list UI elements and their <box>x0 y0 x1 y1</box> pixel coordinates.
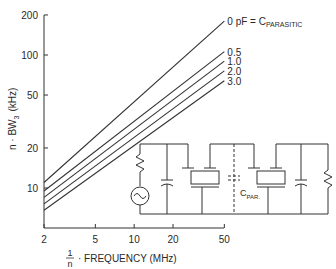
series-line <box>44 61 224 197</box>
x-label-text: · FREQUENCY (MHz) <box>78 253 177 264</box>
y-tick-label: 100 <box>21 50 38 61</box>
circuit-inset: CPAR. <box>131 144 332 214</box>
series-labels: 0 pF = CPARASITIC0.51.02.03.0 <box>227 16 302 87</box>
series-line <box>44 52 224 191</box>
source-resistor-icon <box>136 144 144 186</box>
svg-text:n · BW3(kHz): n · BW3(kHz) <box>7 88 20 150</box>
y-label-unit: (kHz) <box>7 88 18 112</box>
y-label-sub: 3 <box>13 115 20 119</box>
y-tick-label: 200 <box>21 10 38 21</box>
x-tick-label: 10 <box>129 234 141 245</box>
x-ticks: 25102050 <box>41 224 230 245</box>
x-axis-label: 1 n · FREQUENCY (MHz) <box>66 248 177 269</box>
y-tick-label: 10 <box>27 183 39 194</box>
series-label: 3.0 <box>227 76 241 87</box>
y-tick-label: 50 <box>27 90 39 101</box>
load-resistor-icon <box>324 144 332 214</box>
series-lines <box>44 21 224 210</box>
x-tick-label: 20 <box>167 234 179 245</box>
ac-source-icon <box>131 187 149 214</box>
x-tick-label: 2 <box>41 234 47 245</box>
series-line <box>44 21 224 182</box>
shunt-capacitor-icon <box>295 144 307 214</box>
x-label-numerator: 1 <box>67 248 72 258</box>
parasitic-cap-label: CPAR. <box>240 188 260 200</box>
x-label-denominator: n <box>67 259 72 269</box>
series-label: 0 pF = CPARASITIC <box>227 16 302 28</box>
crystal-resonator-icon <box>182 144 219 214</box>
crystal-resonator-icon <box>248 144 285 214</box>
x-tick-label: 50 <box>219 234 231 245</box>
series-line <box>44 81 224 210</box>
x-tick-label: 5 <box>93 234 99 245</box>
y-axis-label: n · BW3(kHz) <box>7 88 20 150</box>
parasitic-capacitor-icon <box>228 144 240 214</box>
y-tick-label: 20 <box>27 143 39 154</box>
bandwidth-vs-frequency-chart: 102050100200 25102050 n · BW3(kHz) 1 n ·… <box>0 0 336 269</box>
y-label-main: n · BW <box>7 119 18 150</box>
shunt-capacitor-icon <box>161 144 173 214</box>
